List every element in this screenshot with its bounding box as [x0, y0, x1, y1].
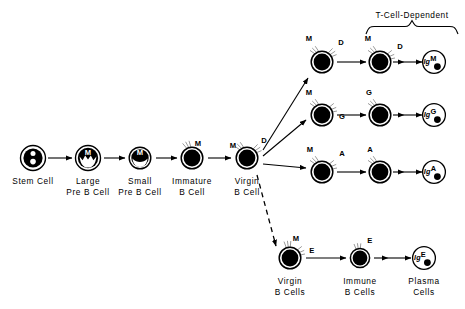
- label-virgin-b: Virgin B Cell: [234, 176, 260, 197]
- plasma-ig-text: Ig: [414, 253, 421, 262]
- label-line-2: B Cell: [172, 187, 212, 198]
- receptor-label-igg-immune-g: G: [366, 88, 372, 97]
- cell-branch-ige-immune: [345, 243, 375, 273]
- label-large-pre-b: Large Pre B Cell: [66, 176, 109, 197]
- label-bottom-virgin-b-cells: Virgin B Cells: [275, 276, 305, 297]
- cell-branch-igg-virgin: [305, 98, 339, 132]
- branch-fanout-arrows: [263, 78, 308, 168]
- plasma-isotype-text: M: [430, 54, 436, 63]
- receptor-label-igm-virgin-d: D: [338, 38, 344, 47]
- label-line-2: B Cell: [234, 187, 260, 198]
- receptor-label-iga-virgin-a: A: [339, 149, 345, 158]
- plasma-isotype-text: E: [421, 250, 426, 259]
- receptor-label-iga-immune-a: A: [367, 145, 373, 154]
- receptor-label-ige-virgin-m: M: [293, 234, 300, 243]
- t-cell-dependent-brace: [366, 21, 458, 35]
- label-line-1: Immune: [343, 276, 377, 287]
- receptor-label-igm-immune-m: M: [365, 34, 372, 43]
- receptor-label-small-pre-b: M: [137, 148, 144, 157]
- t-cell-dependent-label: T-Cell-Dependent: [375, 10, 448, 20]
- label-line-1: Plasma: [408, 276, 439, 287]
- label-bottom-immune-b-cells: Immune B Cells: [343, 276, 377, 297]
- receptor-label-ige-virgin-e: E: [309, 246, 314, 255]
- plasma-ig-text: Ig: [424, 110, 431, 119]
- cell-branch-iga-virgin: [305, 155, 339, 189]
- receptor-label-igg-virgin-m: M: [306, 88, 313, 97]
- label-line-1: Stem Cell: [12, 176, 53, 187]
- plasma-label-igm: IgM: [423, 54, 436, 66]
- label-line-2: Pre B Cell: [66, 187, 109, 198]
- receptor-label-ige-immune-e: E: [367, 236, 372, 245]
- label-immature-b: Immature B Cell: [172, 176, 212, 197]
- label-small-pre-b: Small Pre B Cell: [118, 176, 161, 197]
- receptor-label-virgin-b-d: D: [261, 136, 267, 145]
- cell-branch-igm-virgin: [305, 45, 339, 79]
- label-line-1: Virgin: [275, 276, 305, 287]
- label-line-1: Virgin: [234, 176, 260, 187]
- label-line-2: B Cells: [275, 287, 305, 298]
- receptor-label-virgin-b-m: M: [230, 141, 237, 150]
- label-bottom-plasma-cells: Plasma Cells: [408, 276, 439, 297]
- plasma-label-iga: IgA: [424, 164, 436, 176]
- plasma-isotype-text: A: [431, 164, 437, 173]
- plasma-ig-text: Ig: [424, 167, 431, 176]
- label-stem-cell: Stem Cell: [12, 176, 53, 187]
- label-line-2: B Cells: [343, 287, 377, 298]
- cell-branch-iga-immune: [363, 155, 397, 189]
- diagram-canvas: M M M: [0, 0, 465, 309]
- cell-branch-igm-immune: [363, 45, 397, 79]
- cell-immature-b: [175, 141, 209, 175]
- label-line-2: Cells: [408, 287, 439, 298]
- receptor-label-igm-virgin-m: M: [306, 34, 313, 43]
- label-line-1: Large: [66, 176, 109, 187]
- label-line-2: Pre B Cell: [118, 187, 161, 198]
- receptor-label-igg-virgin-g: G: [339, 112, 345, 121]
- cell-branch-ige-virgin: [273, 241, 307, 275]
- cell-stem: [18, 143, 48, 173]
- receptor-label-large-pre-b: M: [85, 148, 92, 157]
- plasma-isotype-text: G: [430, 107, 436, 116]
- plasma-label-ige: IgE: [414, 250, 426, 262]
- plasma-ig-text: Ig: [423, 57, 430, 66]
- receptor-label-igm-immune-d: D: [397, 42, 403, 51]
- receptor-label-iga-virgin-m: M: [307, 145, 314, 154]
- cell-branch-igg-immune: [363, 98, 397, 132]
- plasma-label-igg: IgG: [424, 107, 437, 119]
- label-line-1: Small: [118, 176, 161, 187]
- receptor-label-immature-b: M: [195, 139, 202, 148]
- label-line-1: Immature: [172, 176, 212, 187]
